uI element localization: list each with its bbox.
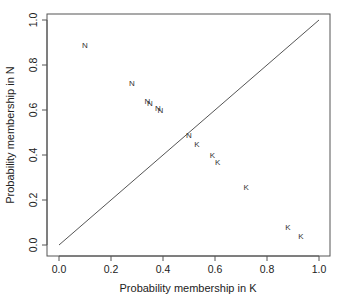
y-tick-label: 0.2 — [27, 193, 39, 208]
data-point-n: N — [186, 131, 192, 140]
data-point-n: N — [82, 41, 88, 50]
data-point-k: K — [194, 140, 200, 149]
y-tick-label: 0.8 — [27, 58, 39, 73]
x-tick-label: 0.0 — [52, 263, 67, 275]
data-point-k: K — [298, 232, 304, 241]
scatter-plot: 0.00.20.40.60.81.0 0.00.20.40.60.81.0 NN… — [0, 0, 341, 302]
x-tick-label: 0.6 — [208, 263, 223, 275]
data-points: NNNNNNNKKKKKK — [82, 41, 304, 241]
x-tick-label: 0.2 — [104, 263, 119, 275]
y-tick-label: 0.0 — [27, 238, 39, 253]
y-axis: 0.00.20.40.60.81.0 — [27, 13, 47, 253]
y-tick-label: 1.0 — [27, 13, 39, 28]
data-point-n: N — [129, 79, 135, 88]
x-tick-label: 0.8 — [260, 263, 275, 275]
data-point-k: K — [215, 158, 221, 167]
y-tick-label: 0.6 — [27, 103, 39, 118]
x-tick-label: 1.0 — [312, 263, 327, 275]
data-point-n: N — [158, 106, 164, 115]
x-axis-label: Probability membership in K — [120, 282, 258, 294]
y-axis-label: Probability membership in N — [4, 66, 16, 204]
x-tick-label: 0.4 — [156, 263, 171, 275]
data-point-n: N — [147, 99, 153, 108]
y-tick-label: 0.4 — [27, 148, 39, 163]
x-axis: 0.00.20.40.60.81.0 — [52, 256, 327, 275]
data-point-k: K — [285, 223, 291, 232]
data-point-k: K — [244, 183, 250, 192]
